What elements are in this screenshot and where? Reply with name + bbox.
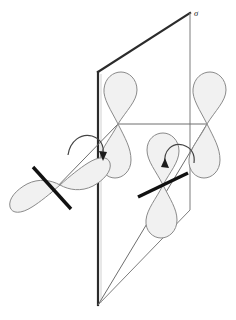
orbital-left-front-lobe-upper	[60, 158, 110, 190]
orbital-diagram-canvas: σ	[0, 0, 236, 320]
orbital-lower-inner	[138, 133, 188, 238]
orbital-lower-inner-lobe-bottom	[146, 185, 177, 238]
orbital-lower-inner-lobe-top	[147, 133, 179, 185]
plane-top-edge	[98, 13, 190, 72]
orbital-left-front-lobe-lower	[10, 180, 60, 212]
orbital-symmetry-figure: σ	[0, 0, 236, 320]
mirror-plane-label: σ	[194, 8, 199, 18]
orbital-right-lobe-bottom	[189, 124, 220, 178]
orbital-right-lobe-top	[193, 72, 226, 124]
orbital-upper-inner-lobe-top	[104, 72, 137, 124]
orbital-left-front	[10, 158, 111, 213]
